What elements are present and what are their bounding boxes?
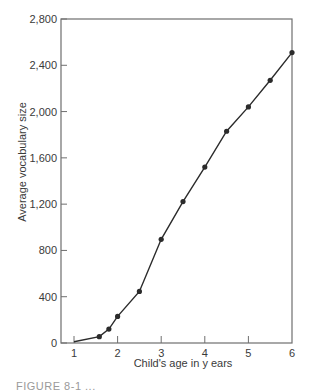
- data-point-marker: [115, 314, 120, 319]
- y-tick-label: 2,400: [29, 59, 57, 71]
- data-point-marker: [224, 129, 229, 134]
- y-axis-title: Average vocabulary size: [16, 102, 28, 222]
- data-point-marker: [137, 289, 142, 294]
- x-axis-ticks: 123456: [71, 336, 295, 359]
- y-tick-label: 1,600: [29, 152, 57, 164]
- x-tick-label: 6: [289, 347, 295, 359]
- y-tick-label: 2,800: [29, 13, 57, 25]
- data-point-marker: [268, 78, 273, 83]
- y-tick-label: 800: [39, 244, 57, 256]
- y-tick-label: 1,200: [29, 198, 57, 210]
- x-tick-label: 2: [115, 347, 121, 359]
- y-tick-label: 400: [39, 291, 57, 303]
- plot-frame: [61, 19, 292, 343]
- series-line: [74, 53, 292, 342]
- x-tick-label: 1: [71, 347, 77, 359]
- y-tick-label: 0: [51, 337, 57, 349]
- plot-border: [61, 19, 292, 343]
- data-point-marker: [97, 334, 102, 339]
- data-point-marker: [159, 237, 164, 242]
- x-axis-title: Child's age in y ears: [134, 357, 233, 369]
- data-point-marker: [106, 327, 111, 332]
- data-point-marker: [202, 165, 207, 170]
- data-point-marker: [180, 199, 185, 204]
- x-tick-label: 5: [245, 347, 251, 359]
- figure-caption: FIGURE 8-1 ...: [16, 380, 96, 392]
- data-point-marker: [246, 104, 251, 109]
- y-tick-label: 2,000: [29, 106, 57, 118]
- data-series: [74, 50, 295, 342]
- data-point-marker: [289, 50, 294, 55]
